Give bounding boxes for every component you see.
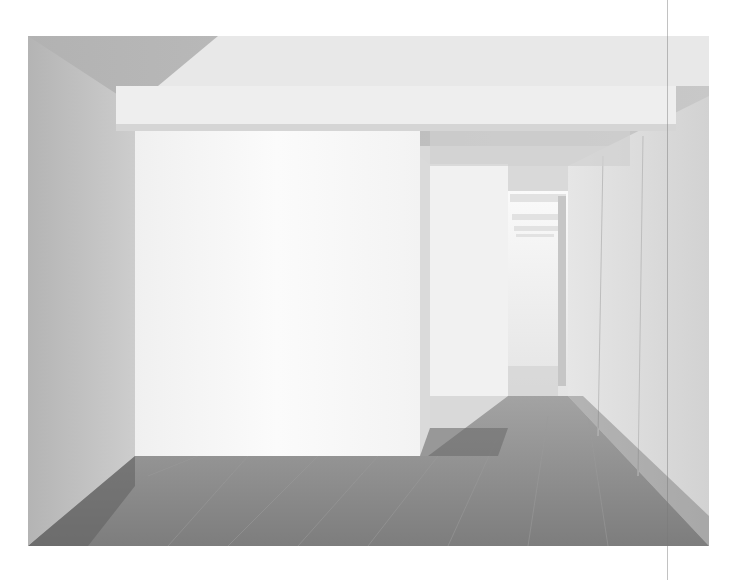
interior-illustration bbox=[28, 36, 709, 546]
doorway-jamb bbox=[558, 196, 566, 386]
overhead-beam-underside bbox=[116, 124, 676, 131]
corridor-beams bbox=[510, 194, 566, 237]
wall-block-side bbox=[420, 156, 430, 456]
ceiling-light-plane bbox=[158, 36, 709, 86]
interior-photo bbox=[28, 36, 709, 546]
corridor-floor-reflection bbox=[508, 366, 558, 396]
upper-soffit bbox=[430, 131, 630, 166]
scan-artifact-line bbox=[667, 0, 668, 580]
middle-wall bbox=[430, 164, 508, 396]
page-corner-mark bbox=[0, 573, 12, 580]
wall-block-shadow bbox=[420, 428, 508, 456]
overhead-beam bbox=[116, 86, 676, 126]
wall-block-front bbox=[135, 131, 420, 456]
